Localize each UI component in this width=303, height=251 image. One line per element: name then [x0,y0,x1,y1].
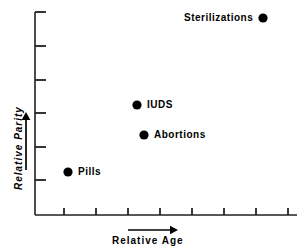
point-label-abortions: Abortions [154,130,206,140]
point-label-iuds: IUDS [147,100,173,110]
x-direction-arrow-head [170,226,178,234]
data-point-pills [63,167,72,176]
axes [35,12,297,215]
axis-ticks [35,12,288,215]
point-label-pills: Pills [78,167,101,177]
point-label-sterilizations: Sterilizations [184,13,253,23]
data-markers [63,13,267,176]
data-point-sterilizations [258,13,267,22]
data-point-iuds [132,100,141,109]
y-axis-title: Relative Parity [14,106,24,190]
data-point-abortions [139,130,148,139]
plot-area [0,0,303,251]
scatter-chart: PillsAbortionsIUDSSterilizations Relativ… [0,0,303,251]
x-axis-title: Relative Age [112,236,184,246]
